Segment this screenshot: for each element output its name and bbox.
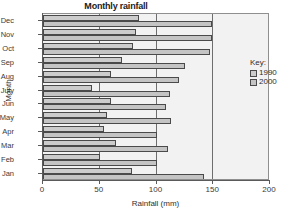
y-tick-jun [38,103,42,104]
legend-item-2000[interactable]: 2000 [250,78,277,86]
y-axis-label-dec: Dec [1,15,14,24]
x-tick-200 [269,180,270,184]
y-axis-label-nov: Nov [1,29,14,38]
y-tick-may [38,117,42,118]
bar-row [43,125,268,139]
bar-row [43,167,268,180]
bar-row [43,14,268,28]
x-tick-100 [156,180,157,184]
y-axis-label-jan: Jan [2,169,14,178]
bar-series-container [43,14,268,179]
bar-row [43,84,268,98]
y-axis-label-mar: Mar [1,141,14,150]
bar-sep-2000 [43,63,185,69]
x-tick-label-100: 100 [149,185,162,194]
y-tick-nov [38,34,42,35]
bar-row [43,56,268,70]
y-tick-aug [38,76,42,77]
bar-dec-2000 [43,21,212,27]
legend: Key: 19902000 [250,58,277,86]
legend-title: Key: [250,58,277,67]
bar-row [43,139,268,153]
bar-aug-2000 [43,77,179,83]
x-tick-label-0: 0 [40,185,44,194]
x-tick-label-200: 200 [262,185,275,194]
bar-row [43,42,268,56]
bar-july-2000 [43,91,170,97]
bar-oct-2000 [43,49,210,55]
bar-feb-2000 [43,160,157,166]
legend-swatch-1990 [250,70,257,77]
bar-row [43,111,268,125]
bar-row [43,70,268,84]
y-tick-feb [38,159,42,160]
x-tick-label-150: 150 [206,185,219,194]
bar-apr-2000 [43,132,157,138]
y-tick-mar [38,145,42,146]
legend-label-1990: 1990 [259,69,277,77]
legend-swatch-2000 [250,79,257,86]
bar-jun-2000 [43,104,166,110]
legend-label-2000: 2000 [259,78,277,86]
plot-area [42,13,269,180]
legend-item-1990[interactable]: 1990 [250,69,277,77]
bar-row [43,98,268,112]
x-tick-150 [212,180,213,184]
y-axis-label-feb: Feb [1,155,14,164]
y-axis-title: Month [4,66,13,116]
y-axis-line [42,13,43,180]
legend-items: 19902000 [250,69,277,86]
y-axis-label-apr: Apr [2,127,14,136]
y-tick-sep [38,62,42,63]
y-tick-apr [38,131,42,132]
y-tick-oct [38,48,42,49]
bar-mar-2000 [43,146,168,152]
y-tick-dec [38,20,42,21]
y-axis-label-oct: Oct [2,43,14,52]
x-tick-label-50: 50 [94,185,103,194]
bar-nov-2000 [43,35,212,41]
bar-row [43,153,268,167]
y-tick-jan [38,173,42,174]
bar-may-2000 [43,118,171,124]
x-tick-50 [99,180,100,184]
chart-root: Monthly rainfall 050100150200 DecNovOctS… [0,0,298,214]
x-axis-title: Rainfall (mm) [42,199,269,208]
x-tick-0 [42,180,43,184]
bar-row [43,28,268,42]
y-tick-july [38,90,42,91]
